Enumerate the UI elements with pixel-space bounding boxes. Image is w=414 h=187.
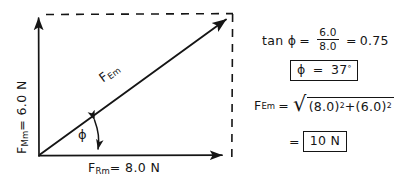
angle-result-box: ϕ = 37°	[290, 60, 358, 81]
magnitude-equals: =	[278, 98, 289, 113]
plus-operator: +	[345, 99, 356, 114]
x-axis-label: FRm= 8.0 N	[88, 160, 160, 176]
tangent-equals-2: =	[346, 33, 357, 48]
magnitude-symbol: F	[254, 98, 262, 113]
vector-diagram	[0, 0, 250, 187]
angle-result-row: ϕ = 37°	[290, 60, 358, 81]
figure-canvas: FMm= 6.0 N FRm= 8.0 N FEm ϕ tan ϕ = 6.0 …	[0, 0, 414, 187]
angle-result-value: 37	[331, 62, 348, 77]
resultant-vector-arrow	[40, 20, 226, 155]
answer-box: 10 N	[303, 131, 347, 152]
tangent-equation-row: tan ϕ = 6.0 8.0 = 0.75	[262, 28, 389, 52]
magnitude-equation-row: FEm = √ (8.0)2+(6.0)2	[254, 96, 394, 116]
x-axis-label-subscript: Rm	[96, 166, 110, 176]
term2-exponent: 2	[387, 101, 392, 110]
angle-result-equals: =	[313, 62, 324, 77]
square-root-expression: √ (8.0)2+(6.0)2	[293, 96, 394, 116]
magnitude-subscript: Em	[262, 101, 276, 111]
dashed-right-line	[232, 14, 233, 161]
term1-base: (8.0)	[309, 99, 340, 114]
tangent-fraction: 6.0 8.0	[317, 27, 339, 51]
degree-icon: °	[347, 64, 351, 73]
y-axis-label: FMm= 6.0 N	[6, 0, 22, 50]
math-work-column: tan ϕ = 6.0 8.0 = 0.75 ϕ = 37° FEm = √	[252, 0, 414, 187]
angle-result-symbol: ϕ	[297, 62, 306, 77]
angle-arc	[95, 120, 99, 149]
tangent-equals-1: =	[299, 33, 310, 48]
radicand: (8.0)2+(6.0)2	[307, 97, 394, 117]
tangent-lhs: tan ϕ	[262, 33, 296, 48]
angle-symbol-label: ϕ	[78, 127, 87, 142]
term2-base: (6.0)	[355, 99, 386, 114]
radical-icon: √	[293, 95, 307, 115]
answer-row: = 10 N	[286, 131, 347, 152]
x-axis-label-value: = 8.0 N	[110, 160, 160, 175]
dashed-top-line	[46, 14, 233, 15]
fraction-denominator: 8.0	[318, 40, 338, 52]
fraction-numerator: 6.0	[318, 27, 338, 39]
answer-equals: =	[289, 134, 300, 149]
tangent-result: 0.75	[360, 33, 389, 48]
y-axis-label-value: = 6.0 N	[14, 80, 29, 130]
y-axis-label-subscript: Mm	[20, 131, 30, 147]
